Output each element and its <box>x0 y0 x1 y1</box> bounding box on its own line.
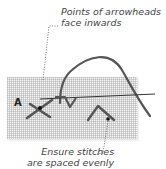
annotation-spacing: Ensure stitches are spaced evenly <box>27 146 114 168</box>
point-a-marker <box>38 106 42 110</box>
thread-loop <box>60 57 150 116</box>
arrowhead-marker <box>106 117 110 121</box>
stitch-diagram: Points of arrowheads face inwards Ensure… <box>0 0 166 169</box>
annotation-line: face inwards <box>61 17 161 28</box>
arrowhead-stitch <box>88 106 114 120</box>
leader-line-top <box>43 26 58 80</box>
annotation-line: are spaced evenly <box>27 157 114 168</box>
annotation-line: Points of arrowheads <box>61 6 161 17</box>
point-a-label: A <box>14 97 22 108</box>
annotation-line: Ensure stitches <box>27 146 114 157</box>
annotation-arrowheads: Points of arrowheads face inwards <box>61 6 161 28</box>
